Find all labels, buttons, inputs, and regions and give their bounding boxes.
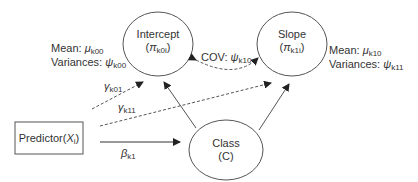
slope-variance: Variances: ψk11 — [329, 58, 404, 71]
slope-mean: Mean: μk10 — [329, 44, 382, 57]
beta-k1-label: βk1 — [121, 147, 136, 160]
intercept-title: Intercept — [128, 28, 188, 41]
predictor-node: Predictor(Xi) — [15, 132, 83, 145]
intercept-variance: Variances: ψk00 — [51, 56, 126, 69]
class-to-intercept-arrow — [164, 82, 196, 128]
class-node: Class (C) — [196, 137, 256, 163]
gamma-k01-label: γk01 — [104, 80, 122, 93]
intercept-node: Intercept (πk0i) — [128, 28, 188, 54]
class-to-slope-arrow — [259, 84, 289, 130]
class-title: Class — [196, 137, 256, 150]
slope-node: Slope (πk1i) — [262, 28, 322, 54]
slope-title: Slope — [262, 28, 322, 41]
intercept-symbol: (πk0i) — [128, 41, 188, 54]
intercept-mean: Mean: μk00 — [51, 42, 104, 55]
class-sub-label: (C) — [196, 150, 256, 163]
cov-label: COV: ψk10 — [201, 51, 251, 64]
slope-symbol: (πk1i) — [262, 41, 322, 54]
gamma-k11-label: γk11 — [118, 101, 136, 114]
